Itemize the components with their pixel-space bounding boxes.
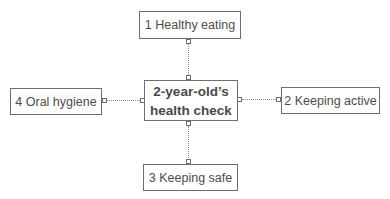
center-node: 2-year-old’s health check <box>144 80 238 121</box>
node-label: 3 Keeping safe <box>149 171 232 185</box>
connector-top <box>188 44 189 75</box>
connector-handle <box>186 121 191 126</box>
node-label: 2 Keeping active <box>284 94 376 108</box>
node-oral-hygiene: 4 Oral hygiene <box>10 88 102 115</box>
node-keeping-active: 2 Keeping active <box>281 87 380 114</box>
node-keeping-safe: 3 Keeping safe <box>143 164 238 191</box>
node-label: 1 Healthy eating <box>145 18 235 32</box>
connector-handle <box>186 39 191 44</box>
connector-left <box>107 100 140 101</box>
connector-bottom <box>188 126 189 158</box>
connector-handle <box>102 98 107 103</box>
connector-right <box>242 99 276 100</box>
center-node-line1: 2-year-old’s <box>153 82 228 101</box>
node-healthy-eating: 1 Healthy eating <box>139 11 241 39</box>
center-node-line2: health check <box>150 101 232 120</box>
node-label: 4 Oral hygiene <box>15 95 96 109</box>
